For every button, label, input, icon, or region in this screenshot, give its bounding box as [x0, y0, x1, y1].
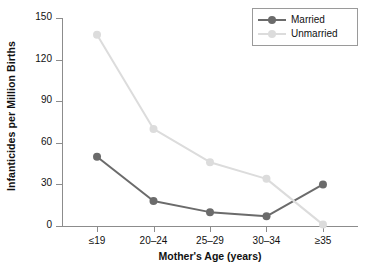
data-point-married-0[interactable]	[93, 153, 101, 161]
y-tick-label: 150	[12, 12, 52, 22]
legend-marker-married-icon	[258, 14, 286, 26]
data-point-married-3[interactable]	[262, 212, 270, 220]
plot-area	[62, 18, 358, 226]
data-point-married-4[interactable]	[319, 180, 327, 188]
y-tick-label: 0	[12, 220, 52, 230]
data-point-married-1[interactable]	[150, 197, 158, 205]
y-tick-label: 60	[12, 137, 52, 147]
y-tick-label: 30	[12, 178, 52, 188]
y-tick-mark	[56, 226, 62, 227]
data-point-unmarried-1[interactable]	[150, 125, 158, 133]
data-point-unmarried-3[interactable]	[262, 175, 270, 183]
legend-label-unmarried: Unmarried	[291, 29, 338, 39]
legend-marker-unmarried-icon	[258, 28, 286, 40]
y-axis-title: Infanticides per Million Births	[2, 0, 20, 232]
chart-figure: Infanticides per Million Births 03060901…	[0, 0, 370, 271]
data-point-unmarried-4[interactable]	[319, 221, 327, 229]
series-line-unmarried	[97, 35, 323, 225]
data-point-unmarried-0[interactable]	[93, 31, 101, 39]
x-axis-title: Mother's Age (years)	[62, 250, 358, 262]
legend-dot-married	[268, 16, 276, 24]
chart-legend: Married Unmarried	[252, 8, 358, 46]
data-point-married-2[interactable]	[206, 208, 214, 216]
legend-label-married: Married	[291, 15, 325, 25]
legend-dot-unmarried	[268, 30, 276, 38]
x-tick-mark	[266, 226, 267, 232]
series-canvas	[62, 18, 358, 226]
x-tick-mark	[210, 226, 211, 232]
legend-item-unmarried[interactable]: Unmarried	[258, 27, 351, 41]
x-tick-label: ≥35	[288, 236, 358, 246]
x-tick-mark	[154, 226, 155, 232]
x-tick-mark	[97, 226, 98, 232]
data-point-unmarried-2[interactable]	[206, 158, 214, 166]
y-tick-label: 90	[12, 95, 52, 105]
legend-item-married[interactable]: Married	[258, 13, 351, 27]
y-tick-label: 120	[12, 54, 52, 64]
